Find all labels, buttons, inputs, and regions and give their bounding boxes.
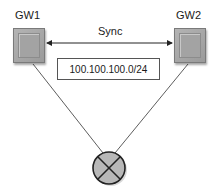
- router-icon: [93, 152, 127, 186]
- gw2-label: GW2: [176, 9, 201, 21]
- subnet-label: 100.100.100.0/24: [70, 64, 148, 75]
- sync-label: Sync: [98, 25, 122, 37]
- gw1-label: GW1: [15, 9, 40, 21]
- gw1-gateway-icon: [13, 28, 45, 63]
- subnet-box: 100.100.100.0/24: [57, 58, 160, 80]
- gw2-gateway-icon: [174, 28, 206, 63]
